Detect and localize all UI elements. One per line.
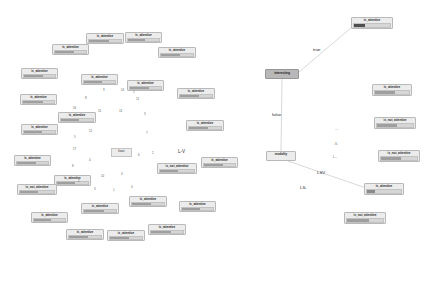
node-label: is_attentive xyxy=(180,202,215,206)
node-value-bar xyxy=(353,23,391,28)
cluster-index-number: 8 xyxy=(85,97,87,100)
cluster-index-number: 2 xyxy=(152,152,154,155)
graph-node-is_attentive[interactable]: is_attentive xyxy=(351,17,393,29)
node-label: is_attentive xyxy=(187,121,223,125)
node-label: is_attentive xyxy=(202,158,237,162)
node-label: is_attentive xyxy=(149,225,185,229)
node-value-bar xyxy=(376,123,414,128)
node-label: is_attentive xyxy=(55,176,90,180)
hour-label-box[interactable]: hour xyxy=(111,148,132,157)
graph-node-is_attentive[interactable]: is_attentive xyxy=(66,229,104,240)
cluster-index-number: 1 xyxy=(113,189,115,192)
node-label: is_attentive xyxy=(365,184,403,188)
node-label: is_not_attentive xyxy=(345,213,385,217)
node-label: is_attentive xyxy=(128,81,163,85)
node-label: is_attentive xyxy=(67,230,103,234)
node-value-bar xyxy=(23,130,56,134)
node-value-bar xyxy=(56,181,89,185)
tree-edge-label: false xyxy=(272,113,281,117)
node-value-bar xyxy=(83,209,117,213)
node-label: is_attentive xyxy=(32,213,67,217)
cluster-index-number: 9 xyxy=(103,89,105,92)
cluster-index-number: 3 xyxy=(144,113,146,116)
node-value-bar xyxy=(16,161,49,165)
node-label: is_attentive xyxy=(130,197,166,201)
node-value-bar xyxy=(83,80,116,84)
graph-node-is_attentive[interactable]: is_attentive xyxy=(177,88,215,99)
graph-node-is_not_attentive[interactable]: is_not_attentive xyxy=(374,117,416,129)
graph-node-is_attentive[interactable]: is_attentive xyxy=(21,68,58,79)
node-label: is_attentive xyxy=(373,85,411,89)
node-label: is_attentive xyxy=(178,89,214,93)
graph-node-is_attentive[interactable]: is_attentive xyxy=(372,84,412,96)
graph-node-is_attentive[interactable]: is_attentive xyxy=(179,201,216,212)
graph-node-is_attentive[interactable]: is_attentive xyxy=(20,94,57,105)
cluster-index-number: 17 xyxy=(73,148,76,151)
graph-node-is_attentive[interactable]: is_attentive xyxy=(186,120,224,131)
node-label: is_attentive xyxy=(53,45,88,49)
graph-node-is_attentive[interactable]: is_attentive xyxy=(158,47,196,58)
graph-node-is_attentive[interactable]: is_attentive xyxy=(364,183,404,195)
graph-node-is_attentive[interactable]: is_attentive xyxy=(81,203,119,214)
cluster-index-number: 11 xyxy=(136,98,139,101)
tree-edge-label: LS- xyxy=(300,186,307,190)
node-label: is_attentive xyxy=(22,69,57,73)
cluster-index-number: 10 xyxy=(101,175,104,178)
cluster-index-number: 7 xyxy=(146,132,148,135)
cluster-index-number: 3 xyxy=(94,188,96,191)
tree-modality-code-label: --- xyxy=(335,128,338,131)
node-label: is_attentive xyxy=(82,75,117,79)
graph-node-is_attentive[interactable]: is_attentive xyxy=(14,155,51,166)
tree-edges xyxy=(0,0,433,284)
node-label: is_attentive xyxy=(159,48,195,52)
graph-node-is_attentive[interactable]: is_attentive xyxy=(54,175,91,186)
node-label: is_attentive xyxy=(126,33,161,37)
cluster-index-number: 4 xyxy=(131,186,133,189)
edge-interesting-to-attentive xyxy=(299,27,352,72)
graph-node-is_attentive[interactable]: is_attentive xyxy=(125,32,162,43)
node-value-bar xyxy=(19,190,55,194)
node-value-bar xyxy=(346,218,384,223)
cluster-index-number: 4 xyxy=(89,159,91,162)
node-value-bar xyxy=(88,39,122,43)
cluster-index-number: 5 xyxy=(74,136,76,139)
node-label: is_attentive xyxy=(59,113,95,117)
graph-node-is_attentive[interactable]: is_attentive xyxy=(52,44,89,55)
graph-node-is_not_attentive[interactable]: is_not_attentive xyxy=(378,150,420,162)
graph-node-interesting[interactable]: interesting xyxy=(265,69,299,79)
graph-node-is_attentive[interactable]: is_attentive xyxy=(129,196,167,207)
graph-node-is_attentive[interactable]: is_attentive xyxy=(21,124,58,135)
graph-node-is_attentive[interactable]: is_attentive xyxy=(86,33,124,44)
graph-node-is_attentive[interactable]: is_attentive xyxy=(201,157,238,168)
node-value-bar xyxy=(160,53,194,57)
graph-node-is_attentive[interactable]: is_attentive xyxy=(31,212,68,223)
node-value-bar xyxy=(203,163,236,167)
node-label: is_not_attentive xyxy=(158,164,196,168)
cluster-index-number: 8 xyxy=(72,165,74,168)
node-label: is_attentive xyxy=(108,231,144,235)
edge-modality-to-attentive xyxy=(288,161,366,188)
node-value-bar xyxy=(366,189,402,194)
node-value-bar xyxy=(23,74,56,78)
graph-node-is_attentive[interactable]: is_attentive xyxy=(148,224,186,235)
graph-node-modality[interactable]: modality xyxy=(266,151,296,161)
diagram-canvas: is_attentiveis_attentiveis_attentiveis_a… xyxy=(0,0,433,284)
graph-node-is_not_attentive[interactable]: is_not_attentive xyxy=(344,212,386,224)
graph-node-is_attentive[interactable]: is_attentive xyxy=(107,230,145,241)
node-value-bar xyxy=(60,118,94,122)
graph-node-is_attentive[interactable]: is_attentive xyxy=(58,112,96,123)
node-label: is_not_attentive xyxy=(379,151,419,155)
node-value-bar xyxy=(188,126,222,130)
graph-node-is_attentive[interactable]: is_attentive xyxy=(81,74,118,85)
node-label: is_not_attentive xyxy=(375,118,415,122)
cluster-index-number: 13 xyxy=(119,110,122,113)
cluster-index-number: 1 xyxy=(133,91,135,94)
cluster-index-number: 12 xyxy=(89,130,92,133)
graph-node-is_not_attentive[interactable]: is_not_attentive xyxy=(157,163,197,174)
node-value-bar xyxy=(22,100,55,104)
node-label: is_attentive xyxy=(82,204,118,208)
node-value-bar xyxy=(131,202,165,206)
graph-node-is_not_attentive[interactable]: is_not_attentive xyxy=(17,184,57,195)
node-value-bar xyxy=(179,94,213,98)
cluster-index-number: 4 xyxy=(121,173,123,176)
